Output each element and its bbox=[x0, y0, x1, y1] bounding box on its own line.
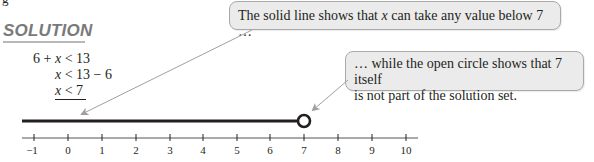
tick-label: 0 bbox=[65, 144, 71, 156]
tick-label: 4 bbox=[200, 144, 206, 156]
tick-labels: −1 0 1 2 3 4 5 6 7 8 9 10 bbox=[26, 144, 412, 156]
number-line-figure: −1 0 1 2 3 4 5 6 7 8 9 10 bbox=[0, 0, 594, 162]
tick-label: 10 bbox=[401, 144, 413, 156]
tick-label: 7 bbox=[301, 144, 307, 156]
open-circle-icon bbox=[298, 115, 310, 127]
tick-label: 2 bbox=[133, 144, 139, 156]
tick-label: 1 bbox=[99, 144, 105, 156]
callout-2-arrow bbox=[313, 80, 348, 110]
tick-label: 9 bbox=[369, 144, 375, 156]
tick-label: 8 bbox=[335, 144, 341, 156]
tick-label: −1 bbox=[26, 144, 38, 156]
tick-label: 5 bbox=[234, 144, 240, 156]
tick-label: 3 bbox=[167, 144, 173, 156]
callout-1-arrow bbox=[82, 30, 252, 114]
tick-label: 6 bbox=[267, 144, 273, 156]
